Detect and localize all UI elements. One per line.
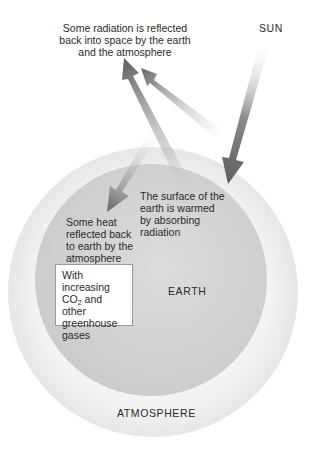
label-line: and the atmosphere (55, 46, 195, 58)
label-line: radiation (140, 226, 250, 238)
label-line: back into space by the earth (55, 34, 195, 46)
label-line: earth is warmed (140, 202, 250, 214)
heat-reflected-back-label: Some heat reflected back to earth by the… (66, 216, 146, 264)
label-line: The surface of the (140, 190, 250, 202)
note-line-co2: CO2 and other (62, 293, 126, 317)
label-line: by absorbing (140, 214, 250, 226)
greenhouse-gases-note: With increasing CO2 and other greenhouse… (55, 264, 133, 326)
label-line: to earth by the (66, 240, 146, 252)
earth-label: EARTH (168, 285, 206, 297)
label-line: atmosphere (66, 252, 146, 264)
note-line: gases (62, 329, 126, 341)
label-line: Some radiation is reflected (55, 22, 195, 34)
co2-text: CO (62, 293, 78, 305)
reflected-to-space-label: Some radiation is reflected back into sp… (55, 22, 195, 58)
sun-label: SUN (259, 22, 283, 34)
sun-radiation-arrow (222, 40, 270, 184)
note-line: greenhouse (62, 317, 126, 329)
note-line: With increasing (62, 269, 126, 293)
label-line: Some heat (66, 216, 146, 228)
label-line: reflected back (66, 228, 146, 240)
surface-warmed-label: The surface of the earth is warmed by ab… (140, 190, 250, 238)
atmosphere-label: ATMOSPHERE (117, 407, 196, 419)
